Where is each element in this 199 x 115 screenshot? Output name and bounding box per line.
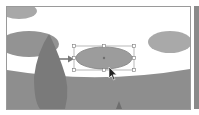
handle-bottom-left[interactable] xyxy=(73,69,76,72)
handle-top-left[interactable] xyxy=(73,45,76,48)
artboard-canvas[interactable] xyxy=(6,6,191,110)
cloud-top-left xyxy=(7,7,37,19)
adjacent-panel-edge xyxy=(194,6,199,109)
handle-top-right[interactable] xyxy=(133,45,136,48)
handle-middle-right[interactable] xyxy=(133,57,136,60)
handle-bottom-right[interactable] xyxy=(133,69,136,72)
cloud-right[interactable] xyxy=(148,31,190,53)
handle-top-center[interactable] xyxy=(103,45,106,48)
center-point xyxy=(103,57,105,59)
artwork xyxy=(7,7,190,109)
handle-bottom-center[interactable] xyxy=(103,69,106,72)
handle-middle-left[interactable] xyxy=(73,57,76,60)
